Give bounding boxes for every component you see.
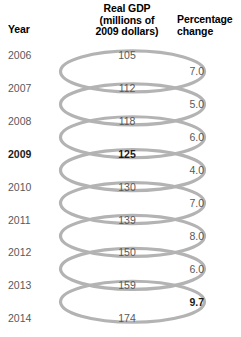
table-body: 2006105200711220081182009125201013020111…	[0, 0, 241, 337]
cell-real-gdp: 159	[84, 279, 170, 291]
cell-percentage-change: 7.0	[162, 65, 204, 77]
cell-percentage-change: 6.0	[162, 131, 204, 143]
cell-year: 2014	[8, 312, 56, 324]
cell-percentage-change: 6.0	[162, 263, 204, 275]
cell-year: 2006	[8, 49, 56, 61]
cell-real-gdp: 105	[84, 49, 170, 61]
cell-year: 2009	[8, 148, 56, 160]
cell-year: 2012	[8, 246, 56, 258]
cell-year: 2007	[8, 82, 56, 94]
cell-real-gdp: 112	[84, 82, 170, 94]
cell-percentage-change: 8.0	[162, 230, 204, 242]
cell-real-gdp: 125	[84, 148, 170, 160]
cell-year: 2013	[8, 279, 56, 291]
gdp-percentage-change-table: Year Real GDP (millions of 2009 dollars)…	[0, 0, 241, 337]
cell-real-gdp: 174	[84, 312, 170, 324]
cell-percentage-change: 9.7	[162, 296, 204, 308]
cell-year: 2010	[8, 181, 56, 193]
cell-year: 2008	[8, 115, 56, 127]
cell-percentage-change: 5.0	[162, 98, 204, 110]
cell-real-gdp: 118	[84, 115, 170, 127]
cell-real-gdp: 130	[84, 181, 170, 193]
cell-percentage-change: 4.0	[162, 164, 204, 176]
cell-percentage-change: 7.0	[162, 197, 204, 209]
cell-year: 2011	[8, 214, 56, 226]
cell-real-gdp: 139	[84, 214, 170, 226]
cell-real-gdp: 150	[84, 246, 170, 258]
